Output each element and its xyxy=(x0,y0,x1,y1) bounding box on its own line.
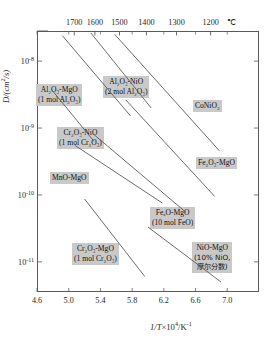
series-label-line-2: (10% NiO, xyxy=(194,253,230,263)
series-label-0: Al₂O₃-MgO(1 mol Al₂O₃) xyxy=(36,84,82,106)
y-axis-tick-label: 10-11 xyxy=(8,256,34,267)
x-axis-title-tail: /K xyxy=(178,322,187,332)
series-label-line-1: NiO-MgO xyxy=(196,243,228,252)
series-label-line-1: Al₂O₃-MgO xyxy=(41,85,78,94)
series-label-line-2: (1 mol Cr₂O₃) xyxy=(74,254,117,264)
temperature-axis-tick-label: 1200 xyxy=(202,19,218,27)
series-label-8: NiO-MgO(10% NiO,摩尔分数) xyxy=(192,242,232,273)
series-label-1: Al₂O₃-NiO(2 mol Al₂O₃) xyxy=(103,76,149,98)
temperature-unit-label: ℃ xyxy=(227,17,236,27)
series-label-line-3: 摩尔分数) xyxy=(194,262,230,272)
x-axis-tick-label: 5.8 xyxy=(127,297,137,305)
y-tick-exponent: -10 xyxy=(26,189,34,195)
y-tick-mantissa: 10 xyxy=(18,258,26,267)
series-label-line-1: CoNiO₂ xyxy=(195,101,220,110)
y-axis-title-tail: /s) xyxy=(1,70,11,79)
y-tick-mantissa: 10 xyxy=(21,57,29,66)
series-label-line-1: MnO-MgO xyxy=(52,173,87,182)
y-tick-mantissa: 10 xyxy=(21,124,29,133)
y-axis-title-exponent: 2 xyxy=(0,78,6,81)
series-label-line-2: (1 mol Cr₂O₃) xyxy=(59,138,102,148)
series-label-line-1: Cr₂O₃-MgO xyxy=(77,244,114,253)
y-axis-title-main: D/(cm xyxy=(1,82,11,103)
series-label-2: CoNiO₂ xyxy=(193,100,222,112)
series-label-4: Fe₂O₃-MgO xyxy=(196,157,237,169)
temperature-axis-tick-label: 1300 xyxy=(168,19,184,27)
series-label-line-1: Fe₂O₃-MgO xyxy=(198,158,235,167)
temperature-axis-tick-label: 1700 xyxy=(66,19,82,27)
x-axis-title-exponent-2: -1 xyxy=(187,320,192,327)
x-axis-title-mid: ×10 xyxy=(161,322,174,332)
x-axis-tick-label: 6.2 xyxy=(159,297,169,305)
series-label-3: Cr₂O₃-NiO(1 mol Cr₂O₃) xyxy=(57,127,104,149)
y-axis-title: D/(cm2/s) xyxy=(0,70,11,103)
x-axis-tick-label: 6.6 xyxy=(190,297,200,305)
y-tick-mantissa: 10 xyxy=(18,191,26,200)
x-axis-tick-label: 4.6 xyxy=(32,297,42,305)
series-label-line-1: FeₓO-MgO xyxy=(156,208,190,217)
series-label-5: MnO-MgO xyxy=(50,172,89,184)
y-axis-tick-label: 10-10 xyxy=(8,189,34,200)
x-axis-title: 1/T×104/K-1 xyxy=(150,320,192,332)
y-tick-exponent: -8 xyxy=(29,56,34,62)
y-tick-exponent: -11 xyxy=(26,256,34,262)
series-label-line-2: (1 mol Al₂O₃) xyxy=(38,95,80,105)
x-axis-tick-label: 5.0 xyxy=(64,297,74,305)
series-label-line-1: Al₂O₃-NiO xyxy=(109,77,143,86)
x-axis-tick-label: 5.4 xyxy=(95,297,105,305)
temperature-axis-tick-label: 1600 xyxy=(87,19,103,27)
x-axis-title-pre: 1/T xyxy=(150,322,161,332)
x-axis-tick-label: 7.0 xyxy=(222,297,232,305)
y-tick-exponent: -9 xyxy=(29,123,34,129)
diffusivity-arrhenius-chart: D/(cm2/s) 1/T×104/K-1 ℃ 4.65.05.45.86.26… xyxy=(0,0,265,343)
series-label-line-2: (10 mol FeO) xyxy=(152,218,193,228)
y-axis-tick-label: 10-9 xyxy=(8,123,34,134)
temperature-axis-tick-label: 1400 xyxy=(138,19,154,27)
series-label-7: Cr₂O₃-MgO(1 mol Cr₂O₃) xyxy=(72,243,119,265)
y-axis-tick-label: 10-8 xyxy=(8,56,34,67)
series-label-line-2: (2 mol Al₂O₃) xyxy=(105,87,147,97)
temperature-axis-tick-label: 1500 xyxy=(111,19,127,27)
series-label-line-1: Cr₂O₃-NiO xyxy=(63,128,97,137)
series-label-6: FeₓO-MgO(10 mol FeO) xyxy=(150,207,195,229)
